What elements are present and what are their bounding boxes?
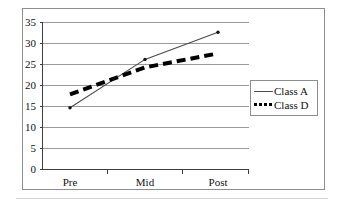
dotted-line-key-icon [254, 100, 273, 110]
x-label-post: Post [198, 177, 238, 188]
x-axis-ticks [108, 170, 249, 174]
y-tick-10: 10 [20, 122, 36, 133]
y-tick-35: 35 [20, 17, 36, 28]
page-rule [16, 198, 328, 199]
series-markers-class-a [68, 31, 219, 110]
x-label-mid: Mid [125, 177, 165, 188]
legend-label-class-a: Class A [274, 86, 308, 97]
gridlines [43, 23, 249, 149]
legend-label-class-d: Class D [274, 100, 309, 111]
axis-lines [43, 23, 249, 170]
chart-legend: Class A Class D [250, 80, 318, 116]
y-tick-5: 5 [20, 143, 36, 154]
y-tick-25: 25 [20, 59, 36, 70]
solid-line-key-icon [254, 86, 273, 96]
chart-figure: 35 30 25 20 15 10 5 0 Pre Mid Post Class… [0, 0, 344, 206]
y-tick-30: 30 [20, 38, 36, 49]
legend-item-class-a: Class A [251, 84, 317, 98]
legend-item-class-d: Class D [251, 98, 317, 112]
y-tick-15: 15 [20, 101, 36, 112]
y-tick-20: 20 [20, 80, 36, 91]
y-tick-0: 0 [20, 164, 36, 175]
x-label-pre: Pre [50, 177, 90, 188]
